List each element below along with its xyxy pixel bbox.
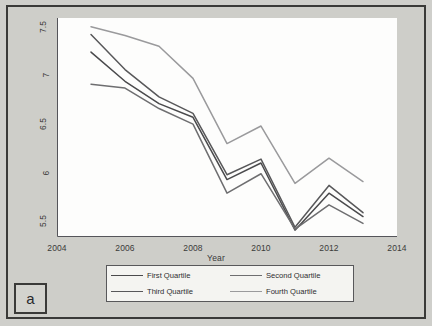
series-line-second-quartile xyxy=(91,84,363,229)
legend-swatch-second-quartile xyxy=(230,275,262,276)
y-tick-label: 6 xyxy=(25,168,49,178)
legend-label-third-quartile: Third Quartile xyxy=(147,287,193,296)
y-tick-label: 7.5 xyxy=(25,22,49,32)
x-tick-label: 2004 xyxy=(43,243,71,253)
series-line-fourth-quartile xyxy=(91,27,363,184)
x-tick-label: 2012 xyxy=(315,243,343,253)
legend-item-second-quartile: Second Quartile xyxy=(230,271,349,280)
legend-label-second-quartile: Second Quartile xyxy=(266,271,320,280)
figure-panel-a: CO2 emissions per capita (tons) 5.566.57… xyxy=(0,0,432,326)
x-tick-label: 2014 xyxy=(383,243,411,253)
y-tick-label: 7 xyxy=(25,70,49,80)
x-axis-title: Year xyxy=(0,253,432,263)
y-tick-label: 6.5 xyxy=(25,119,49,129)
legend-item-first-quartile: First Quartile xyxy=(111,271,230,280)
chart-legend: First Quartile Second Quartile Third Qua… xyxy=(106,265,354,302)
plot-area xyxy=(57,18,397,237)
x-tick-label: 2010 xyxy=(247,243,275,253)
series-line-first-quartile xyxy=(91,52,363,230)
panel-letter-label: a xyxy=(14,283,47,314)
chart-canvas xyxy=(57,18,397,237)
legend-item-third-quartile: Third Quartile xyxy=(111,287,230,296)
series-line-third-quartile xyxy=(91,35,363,228)
legend-item-fourth-quartile: Fourth Quartile xyxy=(230,287,349,296)
x-tick-label: 2008 xyxy=(179,243,207,253)
legend-swatch-third-quartile xyxy=(111,291,143,292)
legend-label-first-quartile: First Quartile xyxy=(147,271,190,280)
legend-label-fourth-quartile: Fourth Quartile xyxy=(266,287,317,296)
x-tick-label: 2006 xyxy=(111,243,139,253)
y-tick-label: 5.5 xyxy=(25,216,49,226)
legend-swatch-first-quartile xyxy=(111,275,143,276)
legend-swatch-fourth-quartile xyxy=(230,291,262,292)
